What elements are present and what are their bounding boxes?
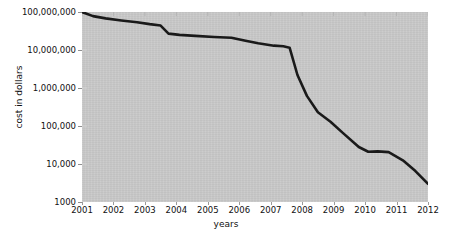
x-tick-mark xyxy=(271,202,272,205)
x-tick-mark xyxy=(365,202,366,205)
y-tick-label: 1,000,000 xyxy=(33,84,76,93)
x-tick-mark xyxy=(82,202,83,205)
x-tick-label: 2003 xyxy=(134,205,156,215)
y-axis-ticks: 100,000,00010,000,0001,000,000100,00010,… xyxy=(0,0,76,248)
x-tick-label: 2005 xyxy=(197,205,219,215)
x-tick-mark xyxy=(145,202,146,205)
y-tick-label: 100,000,000 xyxy=(22,8,76,17)
cost-line-series xyxy=(82,12,428,202)
y-tick-label: 100,000 xyxy=(41,122,76,131)
y-tick-mark xyxy=(78,88,82,89)
y-tick-mark xyxy=(78,126,82,127)
x-tick-mark xyxy=(302,202,303,205)
x-tick-mark xyxy=(113,202,114,205)
x-tick-label: 2007 xyxy=(260,205,282,215)
x-axis-title: years xyxy=(0,219,452,229)
y-tick-label: 10,000 xyxy=(46,160,76,169)
x-tick-label: 2009 xyxy=(323,205,345,215)
x-tick-mark xyxy=(208,202,209,205)
x-tick-label: 2008 xyxy=(291,205,313,215)
chart-figure: 100,000,00010,000,0001,000,000100,00010,… xyxy=(0,0,452,248)
x-tick-mark xyxy=(239,202,240,205)
x-tick-mark xyxy=(428,202,429,205)
plot-area xyxy=(82,12,428,202)
x-tick-label: 2002 xyxy=(103,205,125,215)
x-tick-mark xyxy=(397,202,398,205)
x-tick-label: 2001 xyxy=(71,205,93,215)
y-tick-mark xyxy=(78,164,82,165)
x-tick-mark xyxy=(334,202,335,205)
y-tick-label: 10,000,000 xyxy=(27,46,76,55)
y-tick-mark xyxy=(78,50,82,51)
x-tick-label: 2006 xyxy=(228,205,250,215)
x-tick-label: 2004 xyxy=(166,205,188,215)
series-line-cost-in-dollars xyxy=(82,12,428,184)
x-tick-mark xyxy=(176,202,177,205)
x-tick-label: 2010 xyxy=(354,205,376,215)
y-tick-mark xyxy=(78,12,82,13)
x-tick-label: 2011 xyxy=(386,205,408,215)
y-axis-title: cost in dollars xyxy=(14,52,24,142)
x-tick-label: 2012 xyxy=(417,205,439,215)
